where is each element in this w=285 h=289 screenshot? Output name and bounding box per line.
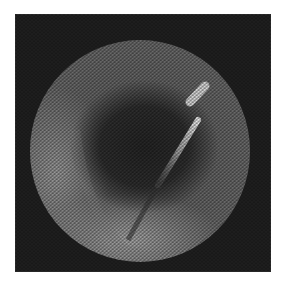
frame-texture: [15, 14, 271, 272]
image-frame: [15, 14, 271, 272]
